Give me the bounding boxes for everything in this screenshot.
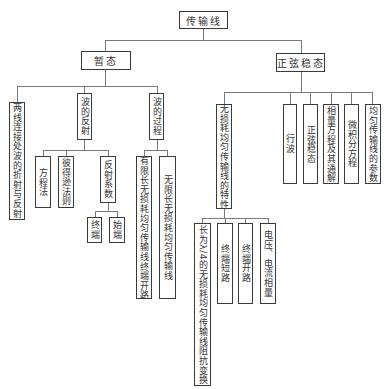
node-label: 方程法: [39, 168, 48, 197]
node-differential-equation: 微积分方程: [344, 104, 359, 184]
node-equation-method: 方程法: [35, 156, 51, 208]
node-terminal-short: 终端短路: [217, 223, 233, 304]
node-label: 终端开路: [241, 244, 250, 282]
node-source-end: 始端: [109, 217, 125, 243]
node-transmission-line: 传输线: [179, 11, 228, 29]
node-transient: 暂态: [81, 51, 131, 70]
node-sine-steady: 正弦稳态: [303, 104, 318, 184]
connector-line: [108, 203, 109, 211]
node-label: 均匀传输线的参数: [369, 106, 378, 183]
connector-line: [290, 92, 291, 104]
connector-line: [84, 140, 85, 150]
connector-line: [301, 72, 302, 92]
node-sinusoidal-steady-state: 正弦稳态: [276, 53, 325, 72]
node-finite-open-line: 有限长无损耗均匀传输线终端开路: [136, 156, 152, 299]
node-phasor-equation: 相量方程及其通解: [323, 104, 339, 184]
connector-line: [157, 86, 158, 93]
node-wave-process: 波的过程: [149, 93, 164, 140]
node-label: 暂态: [94, 53, 118, 68]
connector-line: [331, 92, 332, 104]
connector-line: [351, 92, 352, 104]
connector-line: [224, 92, 225, 104]
connector-line: [224, 209, 225, 218]
node-label: 波的反射: [80, 97, 89, 135]
node-label: 彼得逊法则: [62, 158, 71, 206]
connector-line: [301, 40, 302, 53]
node-infinite-line: 无限长无损耗均匀传输线: [159, 156, 176, 299]
node-label: 行波: [286, 134, 295, 153]
node-label: 终端: [90, 220, 99, 239]
node-label: 波的过程: [152, 97, 161, 135]
node-line-parameters: 均匀传输线的参数: [365, 104, 381, 184]
node-label: 传输线: [186, 13, 222, 28]
node-refraction-reflection: 两线连接处波的折射与反射: [9, 102, 25, 220]
node-label: 始端: [113, 220, 122, 239]
node-voltage-current-phasor: 电压、电流相量: [260, 223, 276, 304]
node-label: 相量方程及其通解: [327, 106, 336, 183]
connector-line: [105, 70, 106, 86]
node-label: 终端短路: [221, 244, 230, 282]
node-label: 反射系数: [104, 160, 113, 198]
node-lossless-properties: 无损耗均匀传输线的特性: [216, 104, 232, 209]
connector-line: [202, 218, 269, 219]
connector-line: [203, 29, 204, 40]
node-wave-reflection: 波的反射: [77, 93, 92, 140]
connector-line: [105, 40, 106, 51]
connector-line: [95, 211, 118, 212]
node-label: 两线连接处波的折射与反射: [13, 103, 22, 218]
node-label: 长为λ/4的无损耗均匀传输线阻抗变换: [198, 225, 207, 385]
node-label: 微积分方程: [347, 120, 356, 168]
node-label: 无损耗均匀传输线的特性: [220, 104, 229, 210]
connector-line: [17, 86, 18, 102]
node-label: 电压、电流相量: [264, 230, 273, 297]
connector-line: [157, 140, 158, 150]
node-terminal-end: 终端: [87, 217, 102, 243]
node-peterson-rule: 彼得逊法则: [58, 156, 74, 208]
node-label: 无限长无损耗均匀传输线: [163, 175, 172, 281]
node-traveling-wave: 行波: [283, 104, 297, 184]
node-label: 有限长无损耗均匀传输线终端开路: [140, 156, 149, 300]
connector-line: [144, 150, 168, 151]
node-reflection-coefficient: 反射系数: [100, 156, 116, 203]
connector-line: [84, 86, 85, 93]
connector-line: [43, 150, 109, 151]
node-quarter-wave-transformer: 长为λ/4的无损耗均匀传输线阻抗变换: [194, 223, 211, 386]
node-label: 正弦稳态: [306, 125, 315, 163]
connector-line: [372, 92, 373, 104]
connector-line: [310, 92, 311, 104]
node-terminal-open: 终端开路: [238, 223, 253, 304]
connector-line: [105, 40, 302, 41]
node-label: 正弦稳态: [277, 55, 325, 70]
connector-line: [17, 86, 158, 87]
